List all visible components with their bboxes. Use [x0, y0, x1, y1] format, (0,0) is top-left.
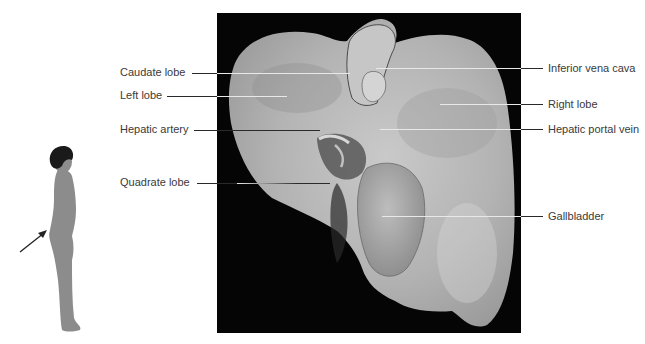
human-silhouette-icon [49, 169, 80, 331]
liver-specimen-shape [217, 13, 521, 333]
label-quadrate-lobe: Quadrate lobe [120, 176, 190, 189]
label-gallbladder: Gallbladder [548, 210, 604, 223]
label-left-lobe: Left lobe [120, 89, 162, 102]
leader-line-gallbladder [382, 216, 543, 217]
leader-line-inferior-vena-cava [376, 68, 543, 69]
liver-photograph [217, 13, 521, 333]
leader-line-caudate-lobe [192, 73, 350, 74]
leader-line-left-lobe [167, 96, 287, 97]
orientation-figure [0, 140, 120, 340]
label-hepatic-artery: Hepatic artery [120, 123, 188, 136]
label-caudate-lobe: Caudate lobe [120, 66, 185, 79]
label-inferior-vena-cava: Inferior vena cava [548, 62, 635, 75]
arrow-icon [20, 233, 44, 252]
leader-line-hepatic-artery [194, 130, 320, 131]
label-hepatic-portal-vein: Hepatic portal vein [548, 123, 639, 136]
leader-line-quadrate-lobe [197, 183, 330, 184]
leader-line-hepatic-portal-vein [380, 129, 543, 130]
leader-line-right-lobe [440, 104, 543, 105]
label-right-lobe: Right lobe [548, 98, 598, 111]
